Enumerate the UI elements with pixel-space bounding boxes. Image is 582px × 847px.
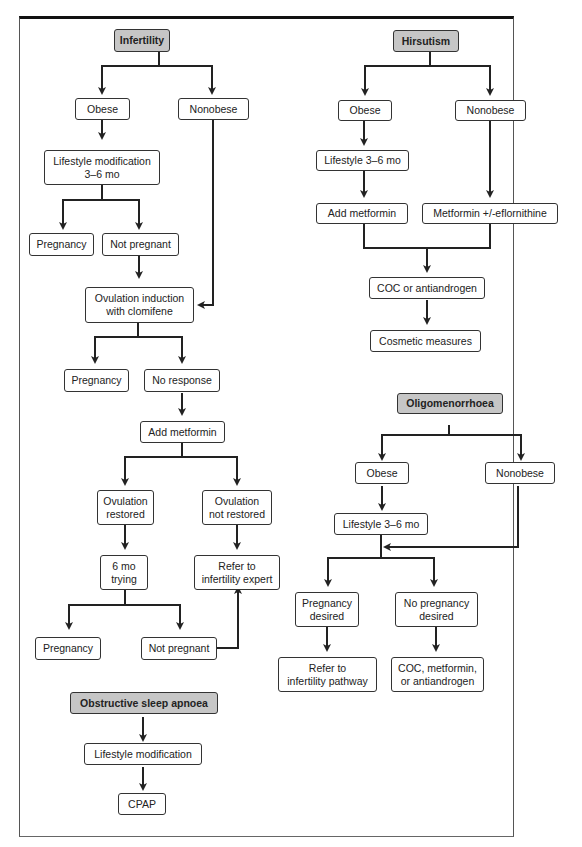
flow-connectors xyxy=(0,0,582,847)
hirsutism-add-metformin-node: Add metformin xyxy=(316,203,408,224)
infertility-ovulation-restored-node: Ovulation restored xyxy=(97,490,154,525)
hirsutism-cosmetic-measures-node: Cosmetic measures xyxy=(370,330,481,352)
infertility-refer-expert-node: Refer to infertility expert xyxy=(194,555,280,590)
infertility-lifestyle-node: Lifestyle modification 3–6 mo xyxy=(44,150,160,185)
oligomenorrhoea-lifestyle-node: Lifestyle 3–6 mo xyxy=(334,513,428,535)
cpap-node: CPAP xyxy=(118,793,166,815)
oligomenorrhoea-header: Oligomenorrhoea xyxy=(397,393,503,414)
hirsutism-metformin-eflornithine-node: Metformin +/-eflornithine xyxy=(422,203,558,224)
infertility-header: Infertility xyxy=(114,29,170,52)
infertility-pregnancy-node-2: Pregnancy xyxy=(64,369,129,392)
oligomenorrhoea-obese-node: Obese xyxy=(355,462,409,484)
infertility-ovulation-not-restored-node: Ovulation not restored xyxy=(202,490,272,525)
infertility-not-pregnant-node-1: Not pregnant xyxy=(102,233,179,256)
infertility-nonobese-node: Nonobese xyxy=(178,98,249,120)
hirsutism-header: Hirsutism xyxy=(393,30,459,52)
oligomenorrhoea-no-pregnancy-desired-node: No pregnancy desired xyxy=(395,592,478,627)
infertility-pregnancy-node-1: Pregnancy xyxy=(29,233,94,256)
oligomenorrhoea-pregnancy-desired-node: Pregnancy desired xyxy=(295,592,359,627)
infertility-ovulation-induction-node: Ovulation induction with clomifene xyxy=(85,287,194,323)
hirsutism-lifestyle-node: Lifestyle 3–6 mo xyxy=(316,150,409,171)
infertility-obese-node: Obese xyxy=(75,98,130,120)
oligomenorrhoea-nonobese-node: Nonobese xyxy=(485,462,555,484)
infertility-six-months-trying-node: 6 mo trying xyxy=(100,555,148,590)
infertility-pregnancy-node-3: Pregnancy xyxy=(35,637,101,660)
infertility-add-metformin-node: Add metformin xyxy=(140,421,225,443)
hirsutism-obese-node: Obese xyxy=(338,100,392,121)
sleep-apnoea-header: Obstructive sleep apnoea xyxy=(70,692,218,714)
infertility-not-pregnant-node-2: Not pregnant xyxy=(141,637,217,660)
hirsutism-nonobese-node: Nonobese xyxy=(455,100,526,121)
sleep-apnoea-lifestyle-node: Lifestyle modification xyxy=(84,743,202,765)
oligomenorrhoea-coc-metformin-node: COC, metformin, or antiandrogen xyxy=(391,657,484,692)
infertility-no-response-node: No response xyxy=(144,369,220,392)
oligomenorrhoea-refer-pathway-node: Refer to infertility pathway xyxy=(278,657,377,692)
hirsutism-coc-antiandrogen-node: COC or antiandrogen xyxy=(369,277,485,299)
